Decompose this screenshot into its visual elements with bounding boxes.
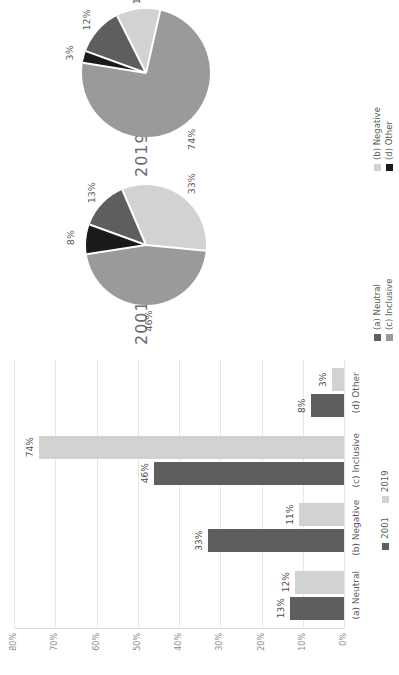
bar-chart: 0%10%20%30%40%50%60%70%80%13%12%(a) Neut…: [4, 351, 396, 669]
y-axis-tick-label: 80%: [10, 633, 18, 667]
bar-value-label: 8%: [298, 399, 307, 413]
legend-item[interactable]: (b) Negative: [372, 11, 382, 171]
bar-2019[interactable]: 12%: [295, 571, 345, 594]
bar-value-label: 13%: [277, 598, 286, 618]
category-label: (b) Negative: [351, 500, 361, 556]
legend-item[interactable]: (d) Other: [384, 11, 394, 171]
pie-slice-divider: [146, 244, 206, 252]
y-axis-tick-label: 30%: [216, 633, 224, 667]
rotated-figure-canvas: 0%10%20%30%40%50%60%70%80%13%12%(a) Neut…: [0, 0, 399, 675]
legend-item[interactable]: 2001: [380, 517, 390, 550]
pie-value-label: 46%: [143, 310, 154, 331]
bar-value-label: 46%: [141, 463, 150, 483]
y-axis-tick-label: 50%: [134, 633, 142, 667]
y-axis-tick-label: 40%: [175, 633, 183, 667]
bar-value-label: 11%: [286, 505, 295, 525]
y-axis-tick-label: 0%: [340, 633, 348, 667]
legend-swatch-icon: [382, 543, 389, 550]
bar-2001[interactable]: 8%: [311, 394, 344, 417]
bar-plot-area: 0%10%20%30%40%50%60%70%80%13%12%(a) Neut…: [14, 359, 344, 629]
y-axis-tick-label: 10%: [299, 633, 307, 667]
bar-chart-legend: 20012019: [380, 351, 390, 669]
legend-label: (b) Negative: [372, 107, 382, 160]
pie-chart-panel: 2001 13%33%46%8% 2019 12%11%74%3% (a) Ne…: [4, 5, 396, 349]
bar-group: 46%74%(c) Inclusive: [14, 427, 344, 495]
pie-value-label: 3%: [63, 45, 74, 60]
pie-value-label: 8%: [65, 230, 76, 245]
pie-2019-disc: [82, 9, 210, 137]
legend-swatch-icon: [374, 334, 381, 341]
pie-slice-divider: [145, 10, 161, 73]
legend-swatch-icon: [386, 164, 393, 171]
bar-value-label: 12%: [282, 572, 291, 592]
category-label: (a) Neutral: [351, 571, 361, 620]
legend-swatch-icon: [374, 164, 381, 171]
y-axis-tick-label: 20%: [258, 633, 266, 667]
bar-2001[interactable]: 33%: [208, 529, 344, 552]
pie-2019-title: 2019: [132, 132, 151, 177]
pie-value-label: 13%: [85, 182, 96, 203]
pie-chart-2019: 2019 12%11%74%3%: [4, 5, 334, 179]
category-label: (c) Inclusive: [351, 433, 361, 487]
y-axis-tick-label: 60%: [93, 633, 101, 667]
bar-2019[interactable]: 3%: [332, 368, 344, 391]
legend-item[interactable]: (c) Inclusive: [384, 181, 394, 341]
bar-value-label: 74%: [26, 437, 35, 457]
pie-value-label: 11%: [131, 0, 142, 4]
bar-value-label: 33%: [195, 531, 204, 551]
category-label: (d) Other: [351, 372, 361, 413]
bar-group: 8%3%(d) Other: [14, 359, 344, 427]
legend-swatch-icon: [386, 334, 393, 341]
pie-2001-disc: [86, 185, 206, 305]
bar-2019[interactable]: 74%: [39, 436, 344, 459]
legend-label: 2001: [380, 517, 390, 539]
pie-value-label: 74%: [185, 129, 196, 150]
pie-value-label: 12%: [81, 9, 92, 30]
bar-value-label: 3%: [319, 373, 328, 387]
legend-label: (a) Neutral: [372, 284, 382, 330]
bar-2001[interactable]: 13%: [290, 597, 344, 620]
pie-slice-divider: [87, 244, 147, 255]
pie-chart-legend: (a) Neutral(b) Negative(c) Inclusive(d) …: [372, 11, 394, 341]
figure-frame: 0%10%20%30%40%50%60%70%80%13%12%(a) Neut…: [0, 0, 399, 675]
legend-label: (c) Inclusive: [384, 279, 394, 330]
y-axis-tick-label: 70%: [51, 633, 59, 667]
legend-label: (d) Other: [384, 121, 394, 160]
gridline: [344, 359, 345, 629]
pie-chart-2001: 2001 13%33%46%8%: [4, 179, 334, 349]
bar-group: 33%11%(b) Negative: [14, 494, 344, 562]
legend-label: 2019: [380, 470, 390, 492]
bar-2019[interactable]: 11%: [299, 503, 344, 526]
bar-group: 13%12%(a) Neutral: [14, 562, 344, 630]
legend-swatch-icon: [382, 496, 389, 503]
bar-2001[interactable]: 46%: [154, 462, 344, 485]
legend-item[interactable]: 2019: [380, 470, 390, 503]
legend-item[interactable]: (a) Neutral: [372, 181, 382, 341]
